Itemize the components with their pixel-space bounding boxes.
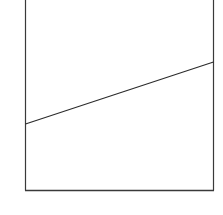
figure-canvas bbox=[0, 0, 223, 215]
line-plot bbox=[0, 0, 223, 215]
axes-face bbox=[26, 0, 214, 191]
